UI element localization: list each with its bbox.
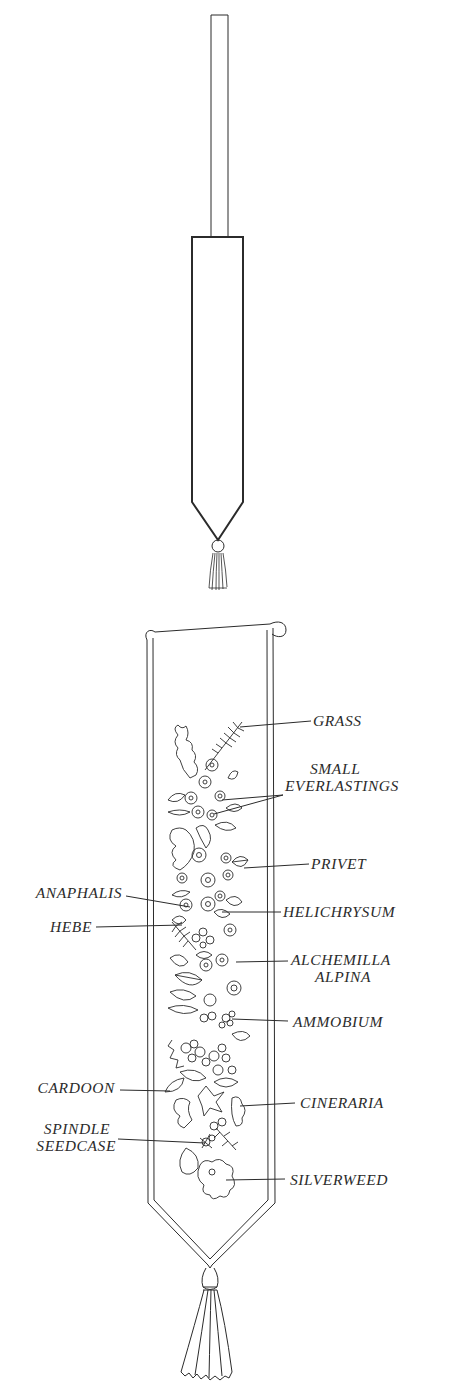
banner-top-roll [146, 622, 286, 640]
leader-line-cardoon [120, 1090, 170, 1091]
label-privet: PRIVET [311, 855, 366, 872]
leader-line-silverweed [226, 1179, 285, 1180]
tassel-knob [212, 540, 224, 552]
label-anaphalis: ANAPHALIS [36, 884, 122, 901]
label-cardoon: CARDOON [38, 1079, 115, 1096]
leader-line-anaphalis [126, 896, 190, 907]
banner-outline [192, 237, 243, 540]
label-grass: GRASS [313, 712, 362, 729]
leader-line-ammobium [232, 1019, 288, 1021]
leader-line-grass [240, 721, 311, 727]
label-spindle-seedcase: SPINDLESEEDCASE [36, 1120, 116, 1154]
label-ammobium: AMMOBIUM [293, 1013, 383, 1030]
cardoon-leaf-icon [165, 1078, 184, 1092]
label-hebe: HEBE [50, 918, 92, 935]
floral-garland [165, 722, 250, 1199]
hanging-rod [211, 15, 228, 237]
cineraria-leaf-icon [175, 725, 198, 778]
upper-bell-pull-diagram [192, 15, 243, 590]
leader-line-spindle-seedcase [118, 1139, 205, 1143]
banner-inner-border [153, 630, 268, 1259]
label-small-everlastings: SMALLEVERLASTINGS [285, 760, 399, 794]
everlasting-flower-icon [185, 759, 225, 820]
banner-outer-border [147, 628, 275, 1268]
label-alchemilla-alpina: ALCHEMILLAALPINA [291, 951, 391, 985]
large-tassel-icon [181, 1268, 232, 1380]
hebe-sprig-icon [172, 916, 196, 950]
label-cineraria: CINERARIA [300, 1094, 384, 1111]
lower-bell-pull-diagram [146, 622, 286, 1380]
leader-line-alchemilla-alpina [236, 961, 288, 962]
cineraria-lower-icon [232, 1097, 246, 1126]
leader-line-hebe [96, 925, 182, 927]
leader-line-privet [244, 864, 309, 868]
label-helichrysum: HELICHRYSUM [283, 903, 395, 920]
label-leader-lines [96, 721, 311, 1180]
tassel-icon [209, 553, 227, 590]
label-silverweed: SILVERWEED [290, 1171, 388, 1188]
spindle-seedcase-icon [200, 1134, 215, 1148]
privet-leaf-icon [232, 856, 248, 866]
silverweed-leaf-icon [198, 1159, 235, 1198]
